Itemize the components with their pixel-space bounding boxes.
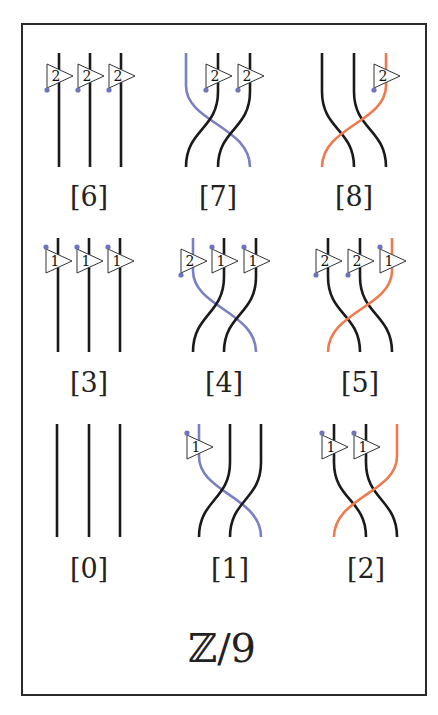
strand bbox=[199, 424, 230, 537]
diagram-caption: [7] bbox=[199, 181, 237, 212]
box-label: 1 bbox=[113, 253, 122, 269]
box-label: 2 bbox=[83, 68, 92, 84]
braid-diagram-figure: 222[6]22[7]2[8]111[3]211[4]221[5][0]1[1]… bbox=[0, 0, 438, 715]
box-label: 2 bbox=[114, 68, 123, 84]
box-label: 1 bbox=[192, 439, 201, 455]
strand bbox=[366, 424, 397, 537]
dot-marker bbox=[345, 272, 350, 277]
diagram-caption: [8] bbox=[335, 181, 373, 212]
dot-marker bbox=[43, 244, 48, 249]
dot-marker bbox=[203, 87, 208, 92]
diagram-caption: [0] bbox=[70, 553, 108, 584]
box-label: 2 bbox=[211, 68, 220, 84]
dot-marker bbox=[178, 272, 183, 277]
diagram-caption: [1] bbox=[211, 553, 249, 584]
box-label: 2 bbox=[321, 253, 330, 269]
diagram-caption: [4] bbox=[205, 367, 243, 398]
dot-marker bbox=[235, 87, 240, 92]
box-label: 2 bbox=[186, 253, 195, 269]
box-label: 1 bbox=[217, 253, 226, 269]
diagram-grid: 222[6]22[7]2[8]111[3]211[4]221[5][0]1[1]… bbox=[43, 53, 406, 584]
diagram-caption: [5] bbox=[341, 367, 379, 398]
diagram-5: 221[5] bbox=[313, 238, 406, 398]
box-label: 2 bbox=[52, 68, 61, 84]
dot-marker bbox=[209, 244, 214, 249]
box-label: 1 bbox=[327, 439, 336, 455]
diagram-2: 11[2] bbox=[319, 424, 397, 584]
diagram-6: 222[6] bbox=[44, 53, 135, 212]
group-title: ℤ/9 bbox=[188, 625, 256, 671]
diagram-4: 211[4] bbox=[178, 238, 270, 398]
dot-marker bbox=[74, 244, 79, 249]
box-label: 2 bbox=[379, 68, 388, 84]
dot-marker bbox=[371, 87, 376, 92]
diagram-3: 111[3] bbox=[43, 238, 134, 398]
dot-marker bbox=[75, 87, 80, 92]
box-label: 2 bbox=[353, 253, 362, 269]
box-label: 1 bbox=[82, 253, 91, 269]
diagram-caption: [2] bbox=[347, 553, 385, 584]
dot-marker bbox=[319, 430, 324, 435]
dot-marker bbox=[313, 272, 318, 277]
dot-marker bbox=[105, 244, 110, 249]
dot-marker bbox=[377, 244, 382, 249]
diagram-0: [0] bbox=[57, 424, 120, 584]
dot-marker bbox=[241, 244, 246, 249]
diagram-caption: [3] bbox=[70, 367, 108, 398]
dot-marker bbox=[106, 87, 111, 92]
box-label: 1 bbox=[359, 439, 368, 455]
box-label: 1 bbox=[51, 253, 60, 269]
diagram-7: 22[7] bbox=[186, 53, 264, 212]
dot-marker bbox=[351, 430, 356, 435]
diagram-1: 1[1] bbox=[184, 424, 261, 584]
diagram-8: 2[8] bbox=[322, 53, 400, 212]
dot-marker bbox=[44, 87, 49, 92]
box-label: 1 bbox=[249, 253, 258, 269]
diagram-caption: [6] bbox=[70, 181, 108, 212]
box-label: 1 bbox=[385, 253, 394, 269]
dot-marker bbox=[184, 430, 189, 435]
box-label: 2 bbox=[243, 68, 252, 84]
